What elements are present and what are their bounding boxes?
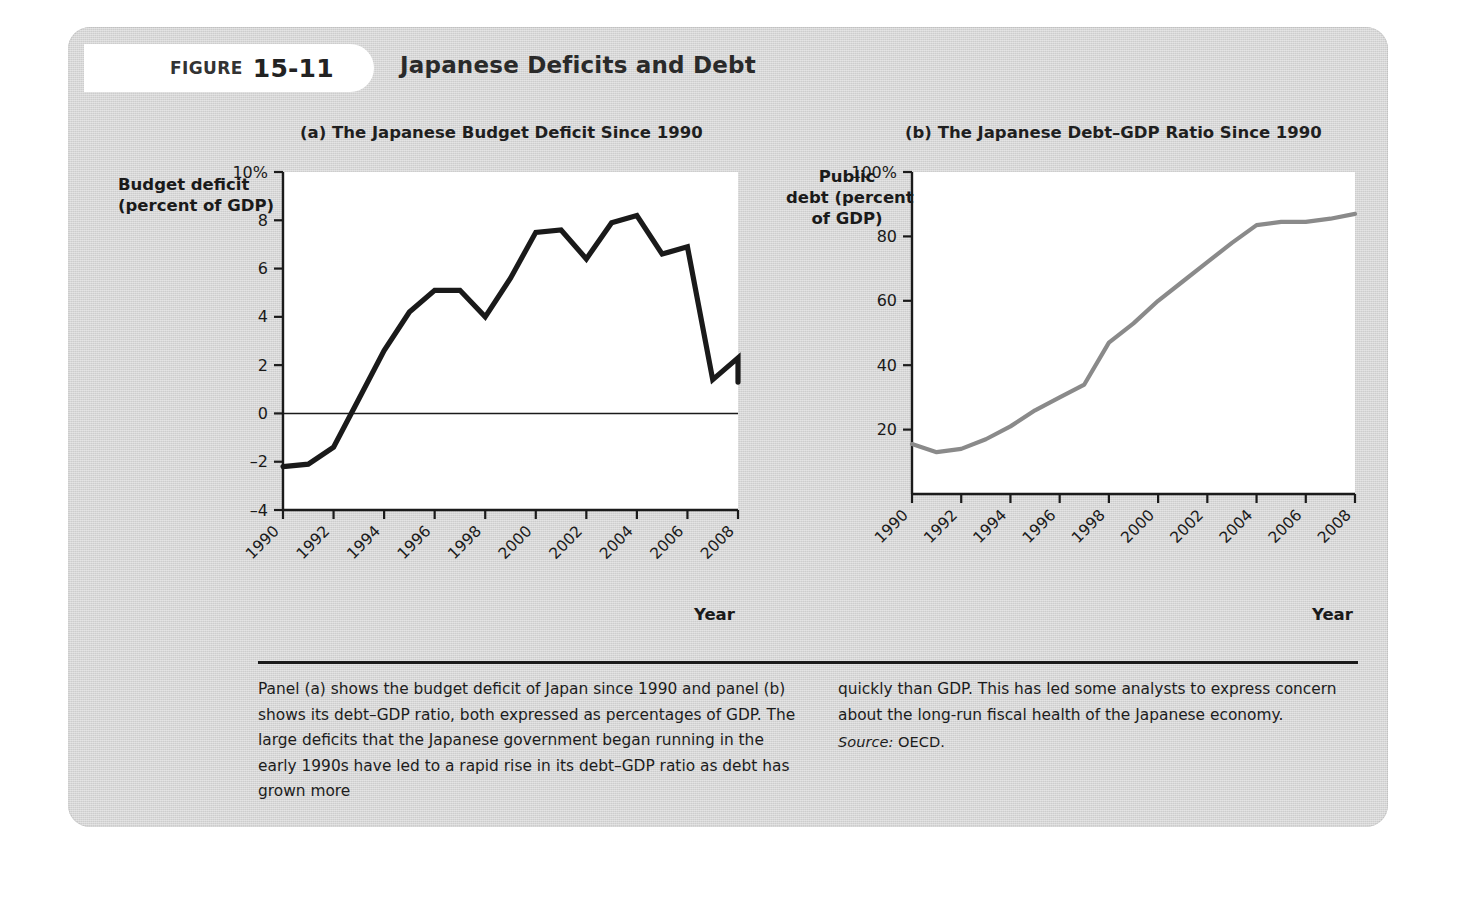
- y-tick-label: 8: [258, 211, 268, 230]
- x-tick-label: 1990: [242, 522, 283, 563]
- x-tick-label: 1992: [920, 506, 961, 547]
- x-tick-label: 2000: [495, 522, 536, 563]
- x-tick-label: 1996: [394, 522, 435, 563]
- x-tick-label: 2004: [596, 522, 637, 563]
- y-tick-label: 40: [877, 356, 897, 375]
- y-tick-label: 100%: [851, 163, 897, 182]
- data-line: [283, 215, 738, 466]
- caption-divider: [258, 661, 1358, 664]
- data-line: [912, 214, 1355, 452]
- figure-number-tab: FIGURE 15-11: [84, 44, 374, 92]
- y-tick-label: 10%: [232, 163, 268, 182]
- panel-b-chart: 20406080100%1990199219941996199820002002…: [760, 160, 1380, 600]
- x-tick-label: 2002: [1167, 506, 1208, 547]
- figure-title: Japanese Deficits and Debt: [400, 52, 756, 78]
- caption-source-value: OECD.: [898, 733, 945, 750]
- y-tick-label: 6: [258, 259, 268, 278]
- panel-a-x-axis-title: Year: [694, 604, 735, 625]
- figure-label-word: FIGURE: [170, 58, 243, 78]
- y-tick-label: –4: [250, 501, 268, 520]
- x-tick-label: 2004: [1216, 506, 1257, 547]
- caption-left-column: Panel (a) shows the budget deficit of Ja…: [258, 677, 803, 805]
- x-tick-label: 1992: [293, 522, 334, 563]
- y-tick-label: 2: [258, 356, 268, 375]
- caption-right-column: quickly than GDP. This has led some anal…: [838, 677, 1358, 755]
- panel-a-chart: –4–20246810%1990199219941996199820002002…: [160, 160, 800, 600]
- panel-b-x-axis-title: Year: [1312, 604, 1353, 625]
- x-tick-label: 1994: [970, 506, 1011, 547]
- x-tick-label: 1996: [1019, 506, 1060, 547]
- x-tick-label: 1998: [1068, 506, 1109, 547]
- x-tick-label: 2000: [1117, 506, 1158, 547]
- panel-a-title: (a) The Japanese Budget Deficit Since 19…: [300, 123, 703, 142]
- y-tick-label: –2: [250, 452, 268, 471]
- x-tick-label: 2006: [1265, 506, 1306, 547]
- x-tick-label: 2008: [1314, 506, 1355, 547]
- x-tick-label: 2002: [546, 522, 587, 563]
- panel-b-title: (b) The Japanese Debt–GDP Ratio Since 19…: [905, 123, 1322, 142]
- caption-source-label: Source:: [838, 733, 893, 750]
- caption-source: Source: OECD.: [838, 729, 1358, 755]
- x-tick-label: 2006: [647, 522, 688, 563]
- figure-page: FIGURE 15-11 Japanese Deficits and Debt …: [0, 0, 1465, 913]
- x-tick-label: 1994: [343, 522, 384, 563]
- figure-number: 15-11: [253, 54, 334, 83]
- y-tick-label: 0: [258, 404, 268, 423]
- x-tick-label: 1990: [871, 506, 912, 547]
- x-tick-label: 1998: [444, 522, 485, 563]
- y-tick-label: 60: [877, 291, 897, 310]
- caption-right-text: quickly than GDP. This has led some anal…: [838, 677, 1358, 728]
- y-tick-label: 80: [877, 227, 897, 246]
- x-tick-label: 2008: [697, 522, 738, 563]
- y-tick-label: 20: [877, 420, 897, 439]
- y-tick-label: 4: [258, 307, 268, 326]
